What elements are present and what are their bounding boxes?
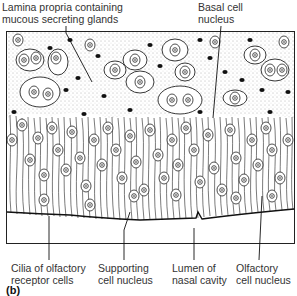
- label-line: nasal cavity: [172, 274, 227, 286]
- label-line: receptor cells: [11, 274, 86, 286]
- label-line: Cilia of olfactory: [11, 262, 86, 274]
- label-olfactory-cell-nucleus: Olfactory cell nucleus: [236, 262, 291, 286]
- label-line: Olfactory: [236, 262, 291, 274]
- label-line: Supporting: [98, 262, 153, 274]
- label-cilia: Cilia of olfactory receptor cells: [11, 262, 86, 286]
- label-line: cell nucleus: [236, 274, 291, 286]
- label-supporting-cell-nucleus: Supporting cell nucleus: [98, 262, 153, 286]
- label-lumen: Lumen of nasal cavity: [172, 262, 227, 286]
- label-line: Lumen of: [172, 262, 227, 274]
- label-line: cell nucleus: [98, 274, 153, 286]
- panel-letter: (b): [6, 284, 20, 296]
